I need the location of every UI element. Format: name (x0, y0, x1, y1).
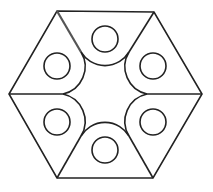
circle-lower-right (140, 109, 166, 135)
circle-upper-right (140, 53, 166, 79)
radial-lines (9, 11, 202, 178)
hexagon-pattern-diagram (0, 0, 213, 192)
circle-top (92, 26, 118, 52)
inner-arcs (63, 52, 147, 136)
arc-bottom (81, 122, 129, 136)
arc-top (81, 52, 129, 66)
arc-upper-right (125, 52, 147, 94)
circle-bottom (92, 137, 118, 163)
arc-upper-left (63, 52, 85, 94)
circle-lower-left (44, 109, 70, 135)
radial-line (129, 12, 154, 52)
arc-lower-left (63, 94, 85, 136)
circle-upper-left (44, 53, 70, 79)
highlighted-segment (57, 11, 81, 52)
arc-lower-right (125, 94, 147, 136)
radial-line (57, 136, 81, 178)
radial-line (129, 136, 153, 178)
